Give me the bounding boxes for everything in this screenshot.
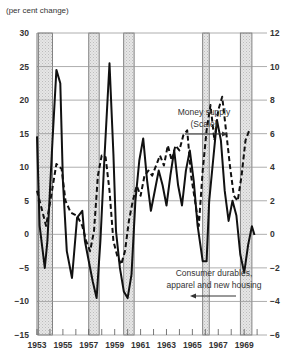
right-y-tick-label: 12 <box>270 28 280 38</box>
left-y-tick-label: 5 <box>24 196 29 206</box>
x-tick-label: 1967 <box>209 340 228 350</box>
left-y-tick-label: 0 <box>24 229 29 239</box>
consumer-durables-label: Consumer durables, <box>176 268 253 278</box>
right-y-axis: 121086420−2−4−6 <box>270 28 280 340</box>
arrow-left-icon <box>190 294 236 299</box>
left-y-tick-label: 25 <box>20 62 30 72</box>
x-tick-label: 1965 <box>183 340 202 350</box>
right-y-tick-label: −6 <box>270 330 280 340</box>
money-supply-label: Money supply <box>178 107 231 117</box>
left-y-tick-label: 10 <box>20 162 30 172</box>
x-tick-label: 1957 <box>79 340 98 350</box>
left-y-tick-label: −15 <box>15 330 30 340</box>
right-y-tick-label: −4 <box>270 296 280 306</box>
x-tick-label: 1963 <box>157 340 176 350</box>
left-y-axis: 302520151050−5−10−15 <box>15 28 30 340</box>
x-tick-label: 1955 <box>53 340 72 350</box>
right-y-tick-label: 0 <box>270 229 275 239</box>
right-y-tick-label: 4 <box>270 162 275 172</box>
left-y-tick-label: 30 <box>20 28 30 38</box>
right-y-tick-label: −2 <box>270 263 280 273</box>
right-y-tick-label: 10 <box>270 62 280 72</box>
x-tick-label: 1959 <box>105 340 124 350</box>
x-tick-label: 1969 <box>235 340 254 350</box>
money-supply-scale-label: (Scale) <box>191 119 218 129</box>
right-y-tick-label: 2 <box>270 196 275 206</box>
line-chart: 302520151050−5−10−15 121086420−2−4−6 195… <box>0 0 293 360</box>
x-tick-label: 1953 <box>28 340 47 350</box>
x-axis-labels: 195319551957195919611963196519671969 <box>28 340 254 350</box>
consumer-durables-label-2: apparel and new housing <box>167 280 262 290</box>
data-series <box>37 63 255 298</box>
left-y-tick-label: −10 <box>15 296 30 306</box>
right-y-tick-label: 6 <box>270 129 275 139</box>
x-tick-label: 1961 <box>131 340 150 350</box>
right-y-tick-label: 8 <box>270 95 275 105</box>
left-y-tick-label: 15 <box>20 129 30 139</box>
left-y-tick-label: 20 <box>20 95 30 105</box>
left-y-tick-label: −5 <box>19 263 29 273</box>
